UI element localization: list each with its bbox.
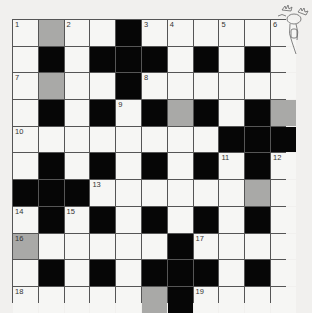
crossword-cell[interactable]: 2 — [65, 20, 90, 46]
crossword-cell[interactable] — [219, 260, 244, 286]
crossword-cell[interactable] — [116, 207, 141, 233]
clue-number: 9 — [118, 101, 122, 109]
crossword-cell[interactable] — [65, 234, 90, 260]
crossword-cell[interactable] — [13, 100, 38, 126]
crossword-cell[interactable] — [65, 153, 90, 179]
crossword-cell[interactable] — [219, 47, 244, 73]
crossword-cell[interactable] — [39, 20, 64, 46]
crossword-cell[interactable] — [116, 287, 141, 313]
crossword-cell[interactable] — [219, 234, 244, 260]
black-square — [39, 153, 64, 179]
crossword-cell[interactable] — [168, 73, 193, 99]
clue-number: 5 — [221, 21, 225, 29]
crossword-cell[interactable] — [65, 100, 90, 126]
crossword-cell[interactable] — [194, 20, 219, 46]
crossword-cell[interactable] — [65, 287, 90, 313]
black-square — [194, 153, 219, 179]
crossword-cell[interactable] — [271, 287, 296, 313]
crossword-cell[interactable] — [39, 73, 64, 99]
crossword-cell[interactable] — [142, 180, 167, 206]
crossword-cell[interactable] — [219, 207, 244, 233]
black-square — [245, 47, 270, 73]
crossword-cell[interactable] — [245, 180, 270, 206]
black-square — [245, 100, 270, 126]
black-square — [245, 127, 270, 153]
crossword-cell[interactable] — [271, 73, 296, 99]
crossword-cell[interactable]: 12 — [271, 153, 296, 179]
crossword-cell[interactable] — [13, 260, 38, 286]
crossword-cell[interactable]: 18 — [13, 287, 38, 313]
crossword-cell[interactable] — [90, 234, 115, 260]
crossword-cell[interactable] — [65, 260, 90, 286]
crossword-cell[interactable] — [194, 180, 219, 206]
crossword-cell[interactable] — [142, 287, 167, 313]
clue-number: 11 — [221, 154, 229, 162]
crossword-cell[interactable] — [168, 127, 193, 153]
crossword-cell[interactable]: 8 — [142, 73, 167, 99]
crossword-cell[interactable]: 10 — [13, 127, 38, 153]
crossword-cell[interactable] — [90, 73, 115, 99]
crossword-cell[interactable]: 19 — [194, 287, 219, 313]
crossword-cell[interactable]: 11 — [219, 153, 244, 179]
black-square — [90, 47, 115, 73]
crossword-cell[interactable] — [168, 207, 193, 233]
crossword-cell[interactable] — [65, 127, 90, 153]
crossword-cell[interactable]: 16 — [13, 234, 38, 260]
crossword-cell[interactable] — [168, 100, 193, 126]
crossword-cell[interactable] — [90, 127, 115, 153]
crossword-cell[interactable]: 13 — [90, 180, 115, 206]
crossword-cell[interactable]: 3 — [142, 20, 167, 46]
crossword-cell[interactable] — [271, 260, 296, 286]
crossword-cell[interactable] — [116, 180, 141, 206]
crossword-cell[interactable] — [168, 47, 193, 73]
crossword-cell[interactable] — [65, 47, 90, 73]
crossword-cell[interactable] — [271, 207, 296, 233]
crossword-cell[interactable] — [219, 287, 244, 313]
crossword-cell[interactable] — [116, 260, 141, 286]
black-square — [142, 47, 167, 73]
crossword-cell[interactable] — [168, 180, 193, 206]
crossword-cell[interactable] — [142, 234, 167, 260]
crossword-cell[interactable] — [39, 127, 64, 153]
crossword-cell[interactable] — [168, 153, 193, 179]
crossword-cell[interactable]: 1 — [13, 20, 38, 46]
crossword-cell[interactable]: 9 — [116, 100, 141, 126]
crossword-cell[interactable]: 15 — [65, 207, 90, 233]
crossword-cell[interactable]: 17 — [194, 234, 219, 260]
crossword-cell[interactable] — [219, 180, 244, 206]
crossword-cell[interactable] — [90, 20, 115, 46]
black-square — [245, 260, 270, 286]
crossword-cell[interactable] — [245, 287, 270, 313]
crossword-cell[interactable] — [39, 234, 64, 260]
clue-number: 3 — [144, 21, 148, 29]
crossword-cell[interactable] — [271, 100, 296, 126]
crossword-cell[interactable] — [194, 73, 219, 99]
crossword-cell[interactable] — [219, 100, 244, 126]
clue-number: 6 — [273, 21, 277, 29]
crossword-cell[interactable] — [13, 47, 38, 73]
crossword-cell[interactable]: 4 — [168, 20, 193, 46]
crossword-cell[interactable] — [116, 234, 141, 260]
crossword-cell[interactable] — [271, 180, 296, 206]
crossword-cell[interactable] — [219, 73, 244, 99]
crossword-cell[interactable] — [142, 127, 167, 153]
crossword-cell[interactable] — [245, 73, 270, 99]
crossword-cell[interactable] — [245, 20, 270, 46]
crossword-cell[interactable] — [271, 234, 296, 260]
black-square — [219, 127, 244, 153]
crossword-cell[interactable] — [13, 153, 38, 179]
crossword-cell[interactable] — [90, 287, 115, 313]
black-square — [39, 100, 64, 126]
crossword-cell[interactable] — [116, 127, 141, 153]
crossword-cell[interactable] — [116, 153, 141, 179]
crossword-cell[interactable] — [65, 73, 90, 99]
black-square — [39, 180, 64, 206]
crossword-cell[interactable] — [194, 127, 219, 153]
crossword-cell[interactable] — [39, 287, 64, 313]
crossword-cell[interactable] — [245, 234, 270, 260]
crossword-cell[interactable]: 14 — [13, 207, 38, 233]
crossword-cell[interactable]: 5 — [219, 20, 244, 46]
crossword-cell[interactable]: 7 — [13, 73, 38, 99]
clue-number: 19 — [196, 288, 204, 296]
black-square — [194, 100, 219, 126]
